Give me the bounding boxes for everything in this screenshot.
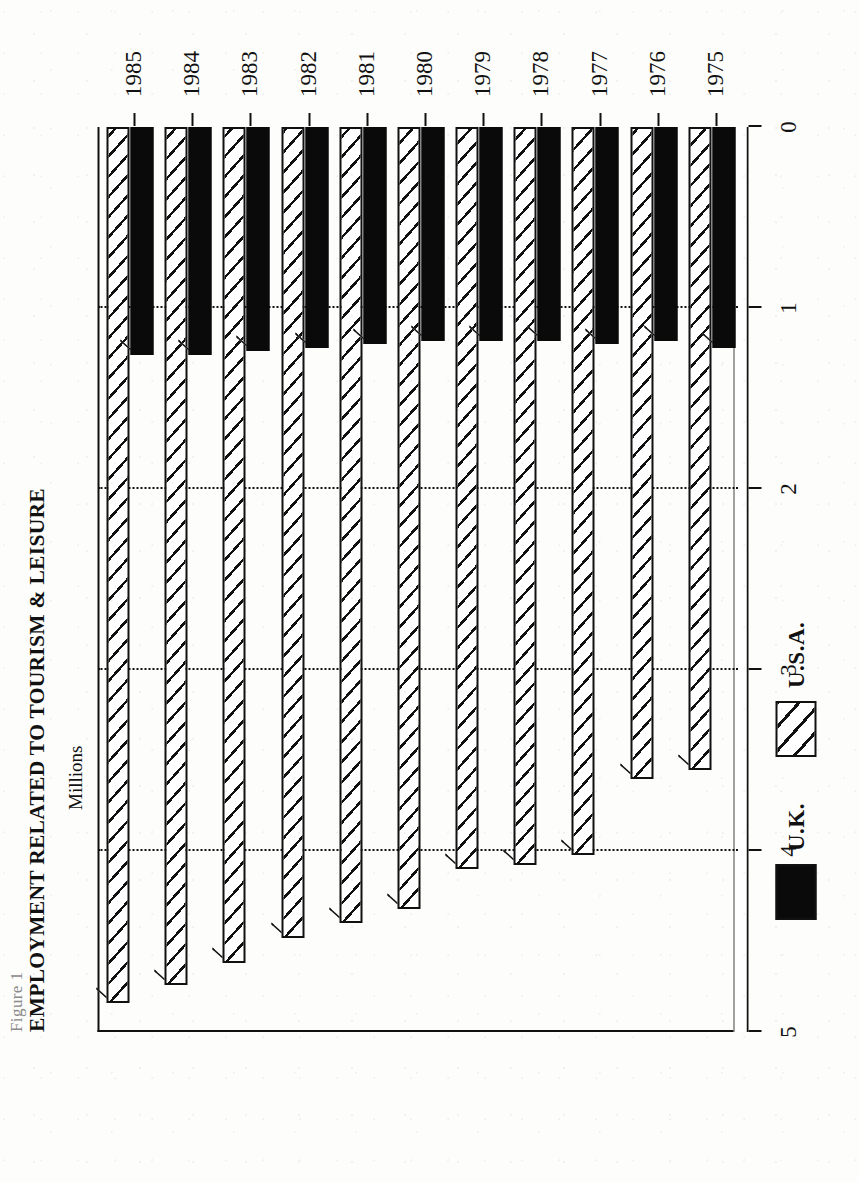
category-label-1977: 1977: [586, 41, 612, 107]
value-tick: [748, 668, 761, 670]
bar-uk-1984[interactable]: [188, 127, 211, 355]
bar-row: [330, 127, 388, 1032]
bar-uk-1975[interactable]: [712, 127, 735, 348]
bar-uk-1983[interactable]: [246, 127, 269, 351]
rotated-figure: Figure 1 EMPLOYMENT RELATED TO TOURISM &…: [0, 0, 859, 1182]
bar-row: [679, 127, 737, 1032]
bar-row: [388, 127, 446, 1032]
value-axis-label: Millions: [64, 746, 86, 810]
bar-uk-1979[interactable]: [479, 127, 502, 341]
category-tick: [715, 113, 717, 126]
value-tick: [748, 487, 761, 489]
bar-row: [562, 127, 620, 1032]
bar-row: [621, 127, 679, 1032]
category-label-1979: 1979: [469, 41, 495, 107]
category-label-1981: 1981: [353, 41, 379, 107]
bar-usa-1982[interactable]: [281, 127, 304, 938]
category-tick: [657, 113, 659, 126]
value-tick: [748, 306, 761, 308]
category-label-1975: 1975: [702, 41, 728, 107]
category-tick: [366, 113, 368, 126]
bar-usa-1985[interactable]: [106, 127, 129, 1003]
bar-usa-1977[interactable]: [571, 127, 594, 855]
value-tick: [748, 1030, 761, 1032]
bar-usa-1976[interactable]: [630, 127, 653, 779]
category-tick: [191, 113, 193, 126]
category-tick: [599, 113, 601, 126]
bar-usa-1983[interactable]: [222, 127, 245, 963]
category-label-1984: 1984: [178, 41, 204, 107]
value-tick-label: 2: [775, 483, 801, 495]
category-label-1976: 1976: [644, 41, 670, 107]
category-label-1980: 1980: [411, 41, 437, 107]
solid-black-swatch: [775, 864, 816, 920]
category-label-1982: 1982: [295, 41, 321, 107]
legend-label: U.S.A.: [783, 622, 809, 688]
bar-row: [155, 127, 213, 1032]
figure-label: Figure 1: [6, 972, 26, 1032]
bar-usa-1975[interactable]: [688, 127, 711, 770]
category-tick: [249, 113, 251, 126]
value-tick: [748, 125, 761, 127]
bar-row: [97, 127, 155, 1032]
chart-title: EMPLOYMENT RELATED TO TOURISM & LEISURE: [24, 488, 49, 1032]
bar-uk-1978[interactable]: [537, 127, 560, 341]
category-tick: [133, 113, 135, 126]
bar-usa-1980[interactable]: [397, 127, 420, 909]
category-tick: [308, 113, 310, 126]
legend-item-usa[interactable]: U.S.A.: [775, 622, 816, 757]
legend-item-uk[interactable]: U.K.: [775, 803, 816, 920]
value-tick: [748, 849, 761, 851]
bar-uk-1977[interactable]: [595, 127, 618, 344]
legend-label: U.K.: [783, 803, 809, 851]
hatched-swatch: [775, 701, 816, 757]
category-tick: [424, 113, 426, 126]
category-label-1985: 1985: [120, 41, 146, 107]
bar-usa-1981[interactable]: [339, 127, 362, 923]
bar-usa-1978[interactable]: [513, 127, 536, 865]
value-tick-label: 0: [775, 121, 801, 133]
bar-row: [504, 127, 562, 1032]
category-tick: [540, 113, 542, 126]
category-label-1983: 1983: [236, 41, 262, 107]
bar-uk-1980[interactable]: [421, 127, 444, 341]
bar-uk-1982[interactable]: [305, 127, 328, 348]
bar-uk-1985[interactable]: [130, 127, 153, 355]
plot-area: 012345 197519761977197819791980198119821…: [97, 127, 737, 1032]
bar-row: [446, 127, 504, 1032]
category-tick: [482, 113, 484, 126]
value-tick-label: 5: [775, 1026, 801, 1038]
bar-row: [213, 127, 271, 1032]
chart-page: Figure 1 EMPLOYMENT RELATED TO TOURISM &…: [0, 0, 859, 1182]
bar-row: [272, 127, 330, 1032]
bar-uk-1976[interactable]: [654, 127, 677, 341]
bar-uk-1981[interactable]: [363, 127, 386, 344]
bar-usa-1984[interactable]: [164, 127, 187, 985]
legend: U.K.U.S.A.: [775, 622, 816, 920]
bar-usa-1979[interactable]: [455, 127, 478, 869]
value-tick-label: 1: [775, 302, 801, 314]
category-label-1978: 1978: [527, 41, 553, 107]
